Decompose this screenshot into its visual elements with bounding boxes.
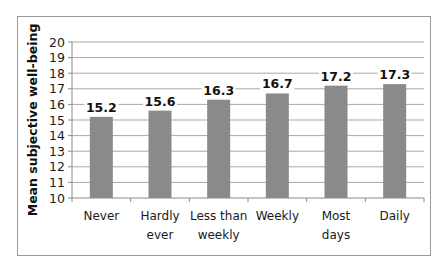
x-category-label: Hardly — [140, 209, 179, 223]
y-tick-label: 11 — [49, 175, 65, 190]
x-category-label: days — [322, 228, 350, 242]
value-label: 17.2 — [321, 69, 352, 84]
value-label: 15.2 — [86, 100, 117, 115]
x-category-label: ever — [147, 228, 174, 242]
y-tick-label: 15 — [49, 113, 65, 128]
x-category-label: Less than — [190, 209, 247, 223]
y-axis-title: Mean subjective well-being — [25, 24, 40, 217]
bar — [383, 84, 406, 198]
x-category-label: Daily — [379, 209, 409, 223]
y-tick-label: 10 — [49, 191, 65, 206]
y-tick-label: 18 — [49, 66, 65, 81]
bar — [90, 117, 113, 198]
value-label: 16.3 — [203, 83, 234, 98]
bar — [325, 86, 348, 198]
y-tick-label: 12 — [49, 159, 65, 174]
bar — [149, 111, 172, 198]
x-category-label: Most — [322, 209, 351, 223]
y-tick-label: 16 — [49, 97, 65, 112]
bar-chart: 101112131415161718192015.2Never15.6Hardl… — [0, 0, 448, 280]
y-tick-label: 17 — [49, 81, 65, 96]
y-tick-label: 14 — [49, 128, 65, 143]
x-category-label: weekly — [198, 228, 240, 242]
x-category-label: Never — [83, 209, 119, 223]
x-category-label: Weekly — [256, 209, 299, 223]
value-label: 17.3 — [379, 67, 410, 82]
y-tick-label: 19 — [49, 50, 65, 65]
value-label: 16.7 — [262, 76, 293, 91]
y-tick-label: 20 — [49, 35, 65, 50]
bar — [266, 93, 289, 198]
bar — [207, 100, 230, 198]
y-tick-label: 13 — [49, 144, 65, 159]
value-label: 15.6 — [145, 94, 176, 109]
